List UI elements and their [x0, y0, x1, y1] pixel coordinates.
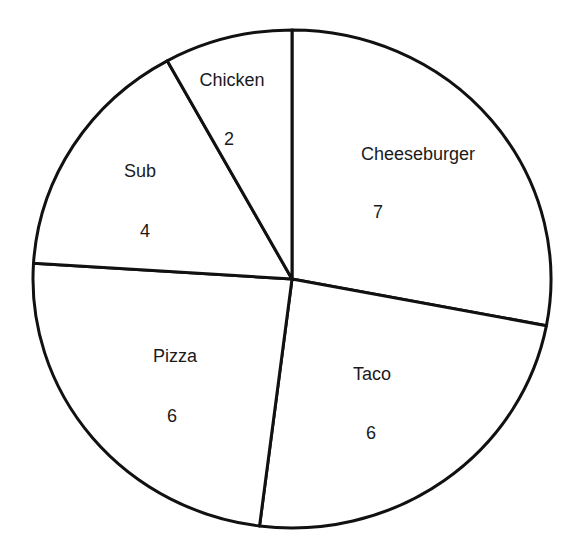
slice-label-chicken: Chicken [199, 70, 264, 90]
slice-label-sub: Sub [124, 161, 156, 181]
slice-value-sub: 4 [140, 221, 150, 241]
slice-label-pizza: Pizza [153, 346, 198, 366]
slice-label-cheeseburger: Cheeseburger [361, 144, 475, 164]
pie-chart: Cheeseburger 7 Taco 6 Pizza 6 Sub 4 Chic… [0, 0, 575, 556]
slice-label-taco: Taco [353, 364, 391, 384]
pie-slices [33, 30, 551, 528]
pie-slice-taco [260, 279, 547, 528]
slice-value-cheeseburger: 7 [373, 202, 383, 222]
slice-value-chicken: 2 [224, 129, 234, 149]
slice-value-taco: 6 [366, 423, 376, 443]
pie-slice-cheeseburger [292, 30, 551, 326]
slice-value-pizza: 6 [167, 406, 177, 426]
pie-slice-pizza [33, 263, 292, 526]
